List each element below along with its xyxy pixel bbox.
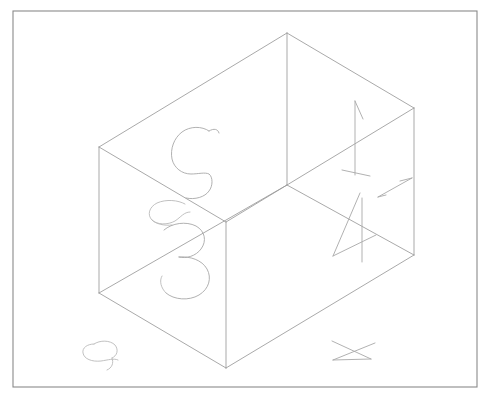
drawing-canvas: Isometric wireframe box sketch	[0, 0, 490, 402]
sketch-drawing-svg	[0, 0, 490, 402]
border-frame	[13, 11, 477, 387]
